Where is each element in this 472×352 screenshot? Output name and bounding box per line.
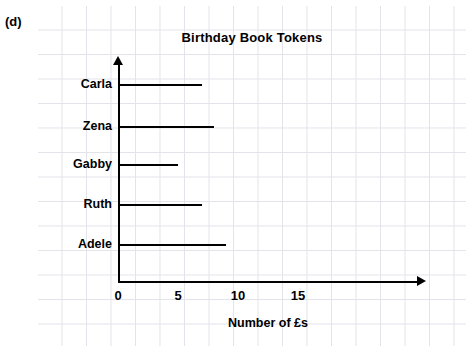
bar-carla — [118, 84, 202, 86]
y-axis-line — [118, 64, 120, 282]
category-label-adele: Adele — [38, 237, 112, 251]
x-axis-line — [118, 281, 418, 283]
y-axis-arrowhead — [113, 56, 123, 65]
x-tick-label-10: 10 — [231, 288, 245, 303]
bar-adele — [118, 244, 226, 246]
x-tick-label-0: 0 — [114, 288, 121, 303]
bar-ruth — [118, 204, 202, 206]
graph-paper-panel: Birthday Book Tokens Carla Zena Gabby Ru… — [38, 6, 466, 346]
part-label: (d) — [5, 14, 22, 29]
x-axis-arrowhead — [417, 276, 426, 286]
category-label-carla: Carla — [38, 77, 112, 91]
x-tick-label-15: 15 — [291, 288, 305, 303]
x-tick-label-5: 5 — [174, 288, 181, 303]
x-axis-title: Number of £s — [118, 316, 418, 330]
chart-page: (d) Birthday Book Tokens Carla Zena Gabb… — [0, 0, 472, 352]
category-label-ruth: Ruth — [38, 197, 112, 211]
category-label-zena: Zena — [38, 119, 112, 133]
category-label-gabby: Gabby — [38, 157, 112, 171]
bar-gabby — [118, 164, 178, 166]
bar-zena — [118, 126, 214, 128]
plot-area: Carla Zena Gabby Ruth Adele 0 5 10 15 Nu… — [38, 6, 466, 346]
